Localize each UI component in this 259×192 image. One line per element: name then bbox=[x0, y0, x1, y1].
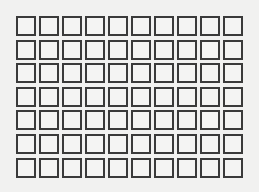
grid-cell bbox=[200, 63, 220, 83]
grid-cell bbox=[177, 63, 197, 83]
grid-cell bbox=[177, 87, 197, 107]
grid-cell bbox=[200, 134, 220, 154]
grid-cell bbox=[200, 40, 220, 60]
grid-cell bbox=[62, 158, 82, 178]
grid-cell bbox=[154, 87, 174, 107]
grid-cell bbox=[177, 158, 197, 178]
grid-cell bbox=[223, 87, 243, 107]
grid-cell bbox=[39, 63, 59, 83]
grid-cell bbox=[16, 110, 36, 130]
grid-cell bbox=[39, 16, 59, 36]
grid-cell bbox=[16, 158, 36, 178]
grid-cell bbox=[223, 158, 243, 178]
grid-cell bbox=[177, 134, 197, 154]
grid-cell bbox=[85, 40, 105, 60]
grid-cell bbox=[131, 16, 151, 36]
grid-cell bbox=[154, 110, 174, 130]
grid-cell bbox=[108, 110, 128, 130]
grid-cell bbox=[131, 110, 151, 130]
grid-cell bbox=[85, 87, 105, 107]
grid-cell bbox=[177, 110, 197, 130]
grid-cell bbox=[62, 110, 82, 130]
grid-cell bbox=[62, 87, 82, 107]
grid-cell bbox=[16, 40, 36, 60]
grid-cell bbox=[223, 40, 243, 60]
grid-cell bbox=[108, 87, 128, 107]
grid-cell bbox=[108, 16, 128, 36]
grid-cell bbox=[154, 63, 174, 83]
grid-cell bbox=[154, 158, 174, 178]
grid-cell bbox=[39, 110, 59, 130]
grid-cell bbox=[62, 16, 82, 36]
grid-cell bbox=[108, 40, 128, 60]
grid-cell bbox=[16, 63, 36, 83]
grid-cell bbox=[85, 158, 105, 178]
grid-cell bbox=[200, 87, 220, 107]
grid-cell bbox=[154, 134, 174, 154]
grid-cell bbox=[200, 158, 220, 178]
grid-cell bbox=[39, 87, 59, 107]
grid-cell bbox=[131, 87, 151, 107]
grid-cell bbox=[177, 40, 197, 60]
grid-cell bbox=[39, 40, 59, 60]
grid-cell bbox=[85, 16, 105, 36]
grid-cell bbox=[108, 158, 128, 178]
grid-cell bbox=[16, 16, 36, 36]
grid-cell bbox=[223, 16, 243, 36]
grid-cell bbox=[85, 110, 105, 130]
grid-cell bbox=[223, 110, 243, 130]
box-grid bbox=[16, 16, 243, 178]
grid-cell bbox=[16, 134, 36, 154]
grid-cell bbox=[39, 158, 59, 178]
grid-cell bbox=[62, 40, 82, 60]
grid-cell bbox=[223, 134, 243, 154]
grid-cell bbox=[85, 63, 105, 83]
grid-cell bbox=[131, 158, 151, 178]
grid-cell bbox=[154, 16, 174, 36]
scanned-page bbox=[0, 0, 259, 192]
grid-cell bbox=[131, 134, 151, 154]
grid-cell bbox=[39, 134, 59, 154]
grid-cell bbox=[85, 134, 105, 154]
grid-cell bbox=[177, 16, 197, 36]
grid-cell bbox=[223, 63, 243, 83]
grid-cell bbox=[16, 87, 36, 107]
grid-cell bbox=[108, 134, 128, 154]
grid-cell bbox=[62, 134, 82, 154]
grid-cell bbox=[154, 40, 174, 60]
grid-cell bbox=[62, 63, 82, 83]
grid-cell bbox=[131, 63, 151, 83]
grid-cell bbox=[200, 110, 220, 130]
grid-cell bbox=[108, 63, 128, 83]
grid-cell bbox=[200, 16, 220, 36]
grid-cell bbox=[131, 40, 151, 60]
